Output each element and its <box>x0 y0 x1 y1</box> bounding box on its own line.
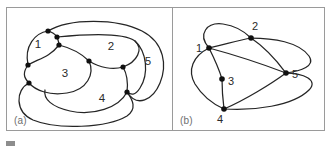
edge-2-5-outer <box>251 38 311 73</box>
edge-3-4 <box>222 79 224 109</box>
edge-1-2 <box>209 38 251 48</box>
region-label-1: 1 <box>35 38 41 50</box>
edge-1-3 <box>209 48 222 79</box>
figure-caption-strip <box>6 140 176 151</box>
edge-2-5 <box>251 38 286 73</box>
vertex-dot <box>124 89 129 94</box>
vertex-dot <box>86 58 91 63</box>
vertex-dot <box>54 34 59 39</box>
node-dot-4 <box>221 106 227 112</box>
node-label-5: 5 <box>292 68 298 80</box>
node-label-1: 1 <box>196 42 202 54</box>
region-label-4: 4 <box>99 92 106 104</box>
vertex-dot <box>56 42 61 47</box>
edge-v6-v5-lower <box>29 61 91 94</box>
edge-1-2-outer-loop <box>204 24 251 48</box>
node-label-4: 4 <box>217 113 223 125</box>
panel-b-nodes <box>206 35 289 112</box>
edge-v6-v7 <box>89 61 123 68</box>
figure-root: 1 2 3 4 5 <box>0 0 332 155</box>
node-label-3: 3 <box>228 75 234 87</box>
node-dot-3 <box>219 76 225 82</box>
vertex-dot <box>25 62 30 67</box>
node-label-2: 2 <box>252 20 258 32</box>
panel-b-label: (b) <box>180 115 193 126</box>
panel-a-label: (a) <box>14 115 27 126</box>
region-label-2: 2 <box>108 40 114 52</box>
region-label-5: 5 <box>145 55 151 67</box>
edge-1-4-outer <box>191 48 224 109</box>
edge-4-5-outer <box>224 73 312 109</box>
edge-v5-bottom-hull <box>19 83 133 126</box>
edge-1-5 <box>209 48 286 73</box>
vertex-dot <box>120 64 125 69</box>
edge-v2-v7-top <box>57 34 139 67</box>
caption-marker-block <box>6 141 15 146</box>
node-dot-2 <box>248 35 254 41</box>
vertex-dot <box>26 80 31 85</box>
panel-b-graph: 1 2 3 4 5 <box>173 8 325 130</box>
edge-v7-v8 <box>123 67 127 92</box>
edge-v4-v5 <box>24 65 29 83</box>
edge-v3-v6 <box>59 45 89 61</box>
vertex-dot <box>45 28 50 33</box>
edge-region5-inner <box>127 41 146 94</box>
region-label-3: 3 <box>62 67 68 79</box>
node-dot-5 <box>283 70 289 76</box>
edge-v4-v3 <box>28 45 59 65</box>
panel-a-graph: 1 2 3 4 5 <box>7 8 172 130</box>
node-dot-1 <box>206 45 212 51</box>
